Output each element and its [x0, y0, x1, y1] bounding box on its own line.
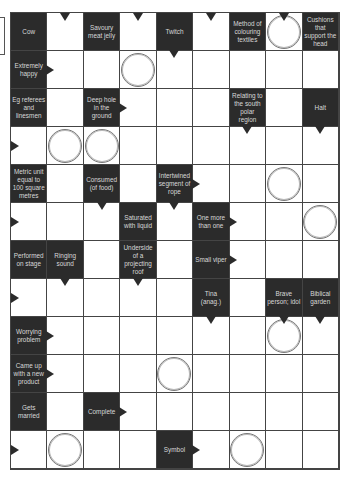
clue-cell: Consumed (of food): [84, 165, 120, 203]
answer-cell[interactable]: [230, 317, 266, 355]
clue-text: Came up with a new product: [12, 362, 45, 386]
arrow-right-icon: [119, 103, 127, 113]
answer-cell[interactable]: [266, 13, 302, 51]
circle-marker: [85, 129, 119, 163]
clue-cell: Symbol: [157, 431, 193, 469]
answer-cell[interactable]: [193, 393, 229, 431]
arrow-right-icon: [192, 179, 200, 189]
answer-cell[interactable]: [11, 279, 47, 317]
answer-cell[interactable]: [157, 89, 193, 127]
answer-cell[interactable]: [266, 165, 302, 203]
answer-cell[interactable]: [193, 13, 229, 51]
answer-cell[interactable]: [266, 355, 302, 393]
answer-cell[interactable]: [266, 127, 302, 165]
answer-cell[interactable]: [230, 393, 266, 431]
answer-cell[interactable]: [47, 127, 83, 165]
answer-cell[interactable]: [303, 51, 339, 89]
clue-cell: Deep hole in the ground: [84, 89, 120, 127]
answer-cell[interactable]: [266, 431, 302, 469]
answer-cell[interactable]: [120, 431, 156, 469]
clue-cell: Relating to the south polar region: [230, 89, 266, 127]
answer-cell[interactable]: [84, 279, 120, 317]
answer-cell[interactable]: [303, 203, 339, 241]
arrow-down-icon: [279, 316, 289, 324]
answer-cell[interactable]: [47, 431, 83, 469]
arrow-down-icon: [206, 316, 216, 324]
answer-cell[interactable]: [120, 317, 156, 355]
answer-cell[interactable]: [120, 165, 156, 203]
answer-cell[interactable]: [47, 203, 83, 241]
clue-cell: Worrying problem: [11, 317, 47, 355]
side-marker: [0, 17, 5, 55]
answer-cell[interactable]: [303, 431, 339, 469]
clue-cell: Twitch: [157, 13, 193, 51]
answer-cell[interactable]: [84, 431, 120, 469]
answer-cell[interactable]: [266, 203, 302, 241]
clue-cell: Gets married: [11, 393, 47, 431]
arrow-down-icon: [133, 278, 143, 286]
answer-cell[interactable]: [84, 317, 120, 355]
answer-cell[interactable]: [47, 393, 83, 431]
answer-cell[interactable]: [230, 165, 266, 203]
clue-text: Deep hole in the ground: [85, 96, 118, 120]
answer-cell[interactable]: [266, 51, 302, 89]
clue-text: Cushions that support the head: [304, 16, 337, 48]
circle-marker: [230, 433, 264, 467]
answer-cell[interactable]: [193, 89, 229, 127]
answer-cell[interactable]: [11, 431, 47, 469]
clue-cell: Complete: [84, 393, 120, 431]
answer-cell[interactable]: [47, 165, 83, 203]
answer-cell[interactable]: [84, 127, 120, 165]
answer-cell[interactable]: [193, 51, 229, 89]
clue-text: One more than one: [194, 214, 227, 230]
answer-cell[interactable]: [157, 241, 193, 279]
clue-cell: Saturated with liquid: [120, 203, 156, 241]
clue-text: Savoury meat jelly: [85, 24, 118, 40]
answer-cell[interactable]: [84, 355, 120, 393]
answer-cell[interactable]: [47, 89, 83, 127]
answer-cell[interactable]: [230, 279, 266, 317]
arrow-right-icon: [229, 255, 237, 265]
clue-cell: Performed on stage: [11, 241, 47, 279]
answer-cell[interactable]: [230, 355, 266, 393]
answer-cell[interactable]: [157, 127, 193, 165]
circle-marker: [157, 357, 191, 391]
answer-cell[interactable]: [266, 89, 302, 127]
arrow-right-icon: [46, 331, 54, 341]
answer-cell[interactable]: [230, 51, 266, 89]
answer-cell[interactable]: [120, 127, 156, 165]
arrow-down-icon: [133, 13, 143, 21]
answer-cell[interactable]: [84, 241, 120, 279]
answer-cell[interactable]: [120, 51, 156, 89]
clue-text: Performed on stage: [12, 252, 45, 268]
clue-text: Worrying problem: [12, 328, 45, 344]
answer-cell[interactable]: [11, 203, 47, 241]
answer-cell[interactable]: [193, 355, 229, 393]
answer-cell[interactable]: [266, 241, 302, 279]
answer-cell[interactable]: [157, 393, 193, 431]
answer-cell[interactable]: [157, 279, 193, 317]
answer-cell[interactable]: [303, 165, 339, 203]
clue-text: Intertwined segment of rope: [158, 172, 191, 196]
arrow-right-icon: [11, 293, 19, 303]
clue-cell: Underside of a projecting roof: [120, 241, 156, 279]
clue-text: Complete: [88, 408, 115, 416]
clue-text: Twitch: [165, 28, 183, 36]
arrow-right-icon: [11, 141, 19, 151]
clue-text: Halt: [315, 104, 326, 112]
answer-cell[interactable]: [303, 355, 339, 393]
answer-cell[interactable]: [230, 431, 266, 469]
answer-cell[interactable]: [120, 13, 156, 51]
answer-cell[interactable]: [11, 127, 47, 165]
answer-cell[interactable]: [157, 317, 193, 355]
answer-cell[interactable]: [193, 127, 229, 165]
answer-cell[interactable]: [47, 13, 83, 51]
clue-text: Relating to the south polar region: [231, 92, 264, 124]
answer-cell[interactable]: [84, 51, 120, 89]
answer-cell[interactable]: [303, 241, 339, 279]
answer-cell[interactable]: [303, 393, 339, 431]
answer-cell[interactable]: [157, 355, 193, 393]
answer-cell[interactable]: [266, 393, 302, 431]
answer-cell[interactable]: [120, 355, 156, 393]
circle-marker: [267, 167, 301, 201]
